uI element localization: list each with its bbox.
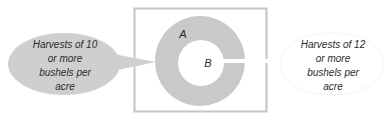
right-callout-line: Harvests of 12 — [301, 39, 366, 50]
right-callout-line: acre — [323, 81, 343, 92]
right-callout-line: bushels per — [307, 67, 359, 78]
left-callout-line: Harvests of 10 — [33, 39, 98, 50]
venn-diagram: A B Harvests of 10 or more bushels per a… — [0, 0, 387, 118]
set-b-circle — [178, 40, 224, 86]
left-callout-line: bushels per — [39, 67, 91, 78]
right-callout-line: or more — [316, 53, 351, 64]
left-callout-line: or more — [48, 53, 83, 64]
set-a-label: A — [178, 28, 186, 40]
set-b-label: B — [204, 57, 211, 69]
right-callout-pointer — [222, 59, 282, 63]
left-callout-line: acre — [55, 81, 75, 92]
